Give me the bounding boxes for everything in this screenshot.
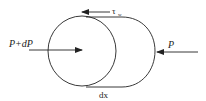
shear-stress-subscript: w (118, 12, 122, 17)
length-label: dx (99, 90, 109, 100)
cross-section-circle (48, 16, 116, 86)
pipe-element-diagram: P+dP P τ w dx (0, 0, 206, 101)
right-force-label: P (167, 39, 174, 50)
left-force-label: P+dP (8, 38, 33, 49)
cylinder-outline (86, 17, 155, 87)
shear-stress-label: τ (112, 6, 116, 16)
